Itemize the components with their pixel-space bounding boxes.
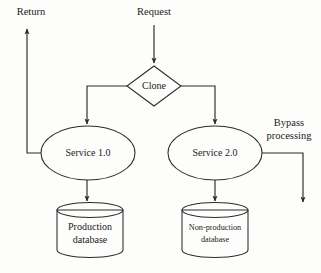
nonproduction-db-label-line1: Non-production	[189, 223, 241, 232]
clone-label: Clone	[142, 80, 166, 91]
edge-clone-to-service-two	[180, 86, 215, 124]
bypass-label-line1: Bypass	[274, 117, 304, 128]
nonproduction-db-label-line2: database	[201, 235, 230, 244]
service-one-label: Service 1.0	[66, 147, 111, 158]
edge-service-one-to-return	[27, 29, 41, 153]
edge-clone-to-service-one	[87, 86, 128, 124]
bypass-label-line2: processing	[267, 130, 313, 141]
return-label: Return	[17, 6, 46, 17]
production-db-label-line2: database	[73, 234, 108, 245]
edge-service-two-bypass	[262, 153, 303, 202]
flowchart-diagram: Return Request Clone Service 1.0 Service…	[0, 0, 321, 273]
diagram-canvas: Return Request Clone Service 1.0 Service…	[0, 0, 321, 273]
production-db-label-line1: Production	[68, 221, 112, 232]
request-label: Request	[137, 6, 171, 17]
service-two-label: Service 2.0	[193, 147, 238, 158]
